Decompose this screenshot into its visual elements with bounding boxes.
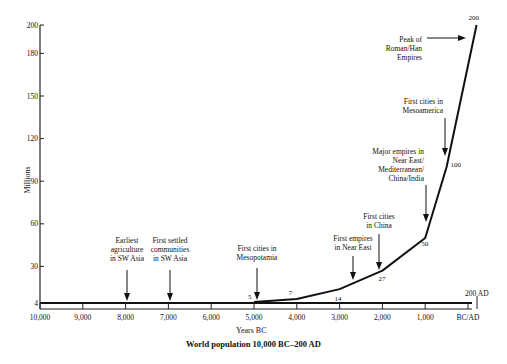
x-tick-label: 5,000 xyxy=(246,313,263,322)
x-tick-label: 1,000 xyxy=(417,313,434,322)
arrow-head-icon xyxy=(442,148,448,156)
population-line xyxy=(254,25,477,302)
y-tick-label: 200 xyxy=(27,21,39,30)
arrow-head-icon xyxy=(376,262,382,270)
x-tick-label: 3,000 xyxy=(331,313,348,322)
annotation-text: First settled xyxy=(152,236,187,245)
data-label: 7 xyxy=(289,289,293,297)
end-marker: 200 AD xyxy=(465,289,489,309)
y-tick-label: 4 xyxy=(34,299,38,308)
annotation: First settledcommunitiesin SW Asia xyxy=(151,236,190,301)
annotation-text: in SW Asia xyxy=(153,254,188,263)
annotation-text: Peak of xyxy=(399,35,422,44)
data-label: 14 xyxy=(335,295,343,303)
y-tick-label: 120 xyxy=(27,134,39,143)
arrow-head-icon xyxy=(458,35,466,41)
arrow-head-icon xyxy=(124,293,130,301)
x-tick-label: 9,000 xyxy=(74,313,91,322)
y-ticks: 4306090120150180200 xyxy=(27,21,44,308)
annotation-text: China/India xyxy=(389,174,425,183)
annotation: Peak ofRoman/HanEmpires xyxy=(386,35,466,62)
y-axis-title: Millions xyxy=(23,166,32,193)
annotation-text: First cities in xyxy=(237,244,276,253)
annotation: First cities inMesopotamia xyxy=(237,244,278,300)
arrow-head-icon xyxy=(254,292,260,300)
x-tick-label: 2,000 xyxy=(374,313,391,322)
chart-title: World population 10,000 BC–200 AD xyxy=(186,339,321,349)
annotation-text: in Near East xyxy=(334,243,372,252)
arrow-head-icon xyxy=(350,272,356,280)
data-label: 100 xyxy=(451,161,462,169)
annotation: Major empires inNear East/Mediterranean/… xyxy=(372,147,429,222)
data-label: 50 xyxy=(421,240,429,248)
annotation-text: First empires xyxy=(333,234,372,243)
end-marker-label: 200 AD xyxy=(465,289,489,298)
annotation-text: First cities xyxy=(363,212,395,221)
y-tick-label: 180 xyxy=(27,49,39,58)
population-series xyxy=(254,25,477,302)
x-tick-label: 10,000 xyxy=(30,313,51,322)
annotation-text: Near East/ xyxy=(393,156,425,165)
x-axis-title: Years BC xyxy=(236,326,267,335)
annotation-text: Mediterranean/ xyxy=(378,165,425,174)
annotation-text: Roman/Han xyxy=(386,44,422,53)
annotation-text: in SW Asia xyxy=(110,254,145,263)
annotation-text: communities xyxy=(151,245,190,254)
annotation-text: Mesopotamia xyxy=(237,253,278,262)
annotations: Earliestagriculturein SW AsiaFirst settl… xyxy=(110,35,466,301)
y-tick-label: 150 xyxy=(27,92,39,101)
data-label: 5 xyxy=(248,293,252,301)
annotation-text: Major empires in xyxy=(372,147,424,156)
x-tick-label: BC/AD xyxy=(457,313,481,322)
x-tick-label: 4,000 xyxy=(288,313,305,322)
x-tick-label: 7,000 xyxy=(160,313,177,322)
y-tick-label: 60 xyxy=(31,219,39,228)
x-ticks: 10,0009,0008,0007,0006,0005,0004,0003,00… xyxy=(30,303,480,322)
annotation: Earliestagriculturein SW Asia xyxy=(110,236,145,301)
x-tick-label: 8,000 xyxy=(117,313,134,322)
annotation-text: in China xyxy=(366,221,392,230)
x-tick-label: 6,000 xyxy=(203,313,220,322)
annotation-text: agriculture xyxy=(111,245,144,254)
annotation-text: First cities in xyxy=(404,97,443,106)
chart-canvas: 4306090120150180200 10,0009,0008,0007,00… xyxy=(0,0,507,364)
arrow-head-icon xyxy=(423,214,429,222)
annotation-text: Empires xyxy=(397,53,422,62)
data-label: 200 xyxy=(469,14,480,22)
arrow-head-icon xyxy=(167,293,173,301)
annotation: First empiresin Near East xyxy=(333,234,372,280)
data-labels: 57142750100200 xyxy=(248,14,480,303)
y-tick-label: 30 xyxy=(31,262,39,271)
annotation-text: Mesoamerica xyxy=(403,106,444,115)
annotation-text: Earliest xyxy=(116,236,140,245)
data-label: 27 xyxy=(378,275,386,283)
